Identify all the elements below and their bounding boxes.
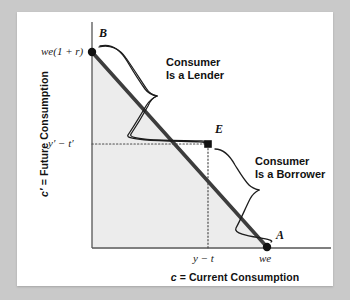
point-a-marker (263, 243, 271, 251)
borrower-brace (215, 149, 259, 190)
figure-container: c′ = Future Consumption c = Current Cons… (0, 0, 350, 300)
annotation-borrower-line1: Consumer (255, 155, 325, 168)
point-b-marker (88, 48, 96, 56)
annotation-borrower-line2: Is a Borrower (255, 168, 325, 181)
y-axis-title: c′ = Future Consumption (38, 44, 50, 224)
annotation-lender-line2: Is a Lender (166, 69, 224, 82)
tick-label-x-endowment: y − t (193, 252, 214, 264)
point-label-a: A (276, 228, 284, 243)
x-axis-title: c = Current Consumption (150, 271, 320, 283)
y-axis-title-symbol: c′ (38, 188, 50, 197)
point-label-b: B (99, 26, 107, 41)
annotation-lender-line1: Consumer (166, 56, 224, 69)
y-axis-title-text: = Future Consumption (38, 71, 50, 188)
tick-label-x-intercept: we (259, 252, 271, 264)
annotation-borrower: Consumer Is a Borrower (255, 155, 325, 181)
x-axis-title-text: = Current Consumption (177, 271, 300, 283)
point-label-e: E (215, 122, 223, 137)
tick-label-y-endowment: y′ − t′ (48, 137, 74, 149)
point-e-marker (204, 140, 212, 148)
tick-label-y-intercept: we(1 + r) (41, 45, 83, 57)
annotation-lender: Consumer Is a Lender (166, 56, 224, 82)
